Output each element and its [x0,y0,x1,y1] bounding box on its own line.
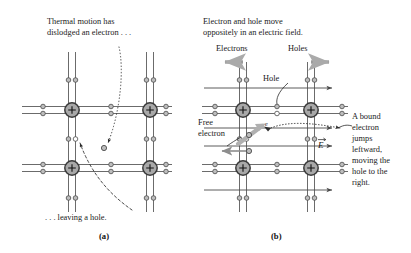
atom-core [304,161,318,175]
hole-leader-line [277,83,288,104]
thermal-dislodge-path [108,47,121,143]
free-electron-label-line2: electron [198,129,225,138]
atom-core [236,161,250,175]
free-electron-label-line1: Free [198,118,213,127]
side-note-line-0: A bound [352,112,381,122]
freed-electron [101,145,106,150]
side-note-line-5: hole to the [352,167,387,177]
vector-arrow-overbar [318,137,327,141]
atom-core [143,103,157,117]
panel-b-caption-top-line1: Electron and hole move [203,17,283,27]
panel-a-caption-top-line2: dislodged an electron . . . [47,28,131,38]
side-note-line-6: right. [352,178,370,188]
hole-label: Hole [263,74,279,83]
free-electron [246,148,251,153]
panel-a-vacancy-site [66,137,78,142]
atom-core [143,161,157,175]
atom-core [65,161,79,175]
panel-b-letter: (b) [271,231,282,241]
atom-core [304,103,318,117]
hole-vacancy [73,137,78,142]
panel-a-letter: (a) [99,231,109,241]
panel-b-hole-site [275,104,280,116]
panel-b-caption-top-line2: oppositely in an electric field. [203,28,303,38]
panel-a-bound-electrons [41,78,169,201]
panel-a-caption-top-line1: Thermal motion has [47,17,114,27]
atom-core [65,103,79,117]
electric-field-label: E [318,140,324,150]
jumping-electron [246,132,251,137]
electron-glyph-label: e [265,120,268,127]
leaving-hole-pointer [80,143,132,210]
hole-migration-path [271,123,340,128]
panel-a-caption-bottom: . . . leaving a hole. [45,213,107,223]
side-note-leader-line [338,125,352,128]
figure-root: Thermal motion has dislodged an electron… [0,0,411,253]
side-note-line-4: moving the [352,156,390,166]
panel-a-lattice [22,47,172,212]
electric-field-symbol: E [318,140,324,150]
panel-a-vertical-bonds [69,52,154,212]
hole-migration-left-head [264,127,271,132]
side-note-line-3: leftward, [352,145,382,155]
atom-core [236,103,250,117]
side-note-line-1: electron [352,123,379,133]
hole-vacancy [275,111,280,116]
holes-label: Holes [288,44,308,53]
side-note-line-2: jumps [352,134,372,144]
electrons-label: Electrons [216,44,248,53]
